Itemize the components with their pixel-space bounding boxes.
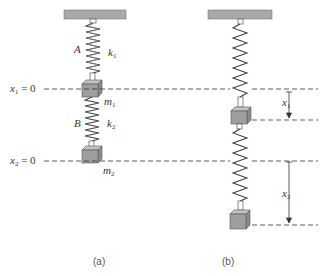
mass-m2-a <box>82 146 102 163</box>
spring-a-label: A <box>74 44 81 55</box>
panel-a <box>64 10 126 163</box>
spring-a-stretched-icon <box>233 24 247 97</box>
mass-m1-a <box>82 80 102 97</box>
x1-zero-label: x1 = 0 <box>10 83 36 96</box>
k2-label: k2 <box>107 118 115 131</box>
x2-displacement-label: x2 <box>282 188 290 201</box>
x1-displacement-label: x1 <box>282 97 290 110</box>
m1-label: m1 <box>104 96 115 109</box>
panel-a-caption: (a) <box>93 257 105 267</box>
spring-a-icon <box>86 23 100 81</box>
panel-b <box>208 10 292 229</box>
spring-b-icon <box>85 97 99 147</box>
x2-zero-label: x2 = 0 <box>10 155 36 168</box>
two-mass-spring-diagram <box>0 0 323 276</box>
ceiling-support-b <box>208 10 272 19</box>
ceiling-support-a <box>64 10 126 19</box>
m2-label: m2 <box>103 165 114 178</box>
spring-b-stretched-icon <box>233 129 247 201</box>
spring-b-label: B <box>74 118 81 129</box>
panel-b-caption: (b) <box>222 257 234 267</box>
mass-m1-b <box>231 107 251 124</box>
k1-label: k1 <box>108 47 116 60</box>
mass-m2-b <box>230 210 250 229</box>
